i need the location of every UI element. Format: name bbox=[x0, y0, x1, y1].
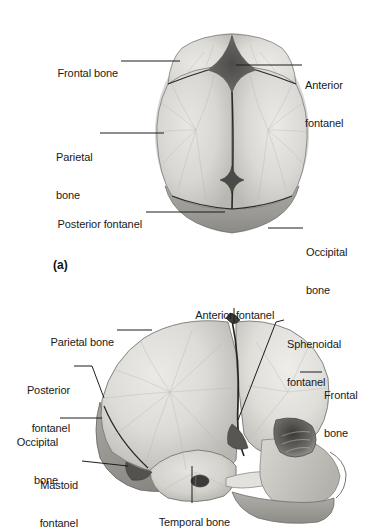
label-posterior-fontanel-b-line1: Posterior bbox=[8, 384, 70, 397]
label-posterior-fontanel-a-text: Posterior fontanel bbox=[58, 218, 142, 230]
label-frontal-bone-a-text: Frontal bone bbox=[57, 67, 118, 79]
label-parietal-bone-b-text: Parietal bone bbox=[50, 336, 114, 348]
label-occipital-bone-a: Occipital bone bbox=[306, 221, 347, 321]
label-frontal-bone-b-line1: Frontal bbox=[324, 389, 358, 402]
label-sphenoidal-fontanel-b-line1: Sphenoidal bbox=[287, 338, 341, 351]
label-posterior-fontanel-a: Posterior fontanel bbox=[30, 205, 142, 243]
parietal-bone-shape-b bbox=[101, 321, 238, 476]
label-parietal-bone-a-line2: bone bbox=[56, 189, 93, 202]
label-anterior-fontanel-b-text: Anterior fontanel bbox=[195, 309, 274, 321]
label-anterior-fontanel-a-line2: fontanel bbox=[305, 117, 343, 130]
label-temporal-bone-b-text: Temporal bone bbox=[159, 516, 230, 528]
orbit-b bbox=[274, 418, 316, 457]
label-frontal-bone-b: Frontal bone bbox=[324, 364, 358, 464]
label-anterior-fontanel-a: Anterior fontanel bbox=[305, 54, 343, 154]
panel-a-skull-superior-view bbox=[100, 33, 309, 233]
label-occipital-bone-a-line1: Occipital bbox=[306, 246, 347, 259]
label-occipital-bone-b-line1: Occipital bbox=[4, 436, 58, 449]
label-temporal-bone-b: Temporal bone bbox=[147, 503, 230, 532]
label-occipital-bone-a-line2: bone bbox=[306, 284, 347, 297]
leader-posterior-fontanel-b bbox=[74, 366, 104, 398]
parietal-bone-right-shape-a bbox=[232, 66, 307, 209]
label-mastoid-fontanel-b: Mastoid fontanel bbox=[18, 454, 78, 532]
label-frontal-bone-a: Frontal bone bbox=[32, 54, 118, 92]
label-parietal-bone-a-line1: Parietal bbox=[56, 151, 93, 164]
label-mastoid-fontanel-b-line1: Mastoid bbox=[18, 479, 78, 492]
label-mastoid-fontanel-b-line2: fontanel bbox=[18, 517, 78, 530]
label-parietal-bone-b: Parietal bone bbox=[22, 323, 114, 361]
parietal-bone-left-shape-a bbox=[157, 66, 232, 209]
panel-a-letter: (a) bbox=[53, 258, 68, 272]
label-frontal-bone-b-line2: bone bbox=[324, 427, 358, 440]
label-anterior-fontanel-a-line1: Anterior bbox=[305, 79, 343, 92]
label-anterior-fontanel-b: Anterior fontanel bbox=[184, 296, 274, 334]
